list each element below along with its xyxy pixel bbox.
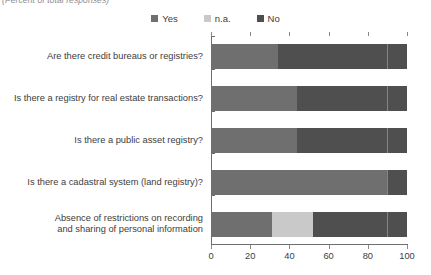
category-label: Absence of restrictions on recordingand … bbox=[0, 213, 203, 235]
chart-legend: Yes n.a. No bbox=[0, 14, 431, 23]
bar-row bbox=[211, 212, 407, 237]
legend-item-yes: Yes bbox=[151, 14, 178, 23]
x-axis-tick-label: 20 bbox=[245, 251, 255, 261]
category-label: Is there a public asset registry? bbox=[0, 135, 203, 146]
legend-swatch-na bbox=[204, 15, 211, 22]
category-separator-tick bbox=[211, 153, 215, 154]
x-axis-tick bbox=[250, 245, 251, 249]
category-label: Are there credit bureaus or registries? bbox=[0, 51, 203, 62]
bar-segment-na bbox=[272, 212, 313, 237]
axis-corner-tick bbox=[211, 244, 215, 245]
stacked-bar-chart: Are there credit bureaus or registries?I… bbox=[0, 30, 431, 275]
x-axis-tick-label: 80 bbox=[363, 251, 373, 261]
category-label-line: and sharing of personal information bbox=[0, 224, 203, 235]
x-axis-tick-label: 40 bbox=[284, 251, 294, 261]
x-axis-tick-top bbox=[329, 32, 330, 36]
bar-segment-yes bbox=[211, 44, 278, 69]
category-label: Is there a cadastral system (land regist… bbox=[0, 177, 203, 188]
bar-segment-no bbox=[313, 212, 407, 237]
bar-segment-yes bbox=[211, 86, 297, 111]
bar-row bbox=[211, 44, 407, 69]
category-separator-tick bbox=[211, 195, 215, 196]
legend-item-no: No bbox=[257, 14, 280, 23]
x-axis-tick bbox=[211, 245, 212, 249]
bar-segment-no bbox=[278, 44, 407, 69]
x-axis-tick-top bbox=[289, 32, 290, 36]
category-separator-tick bbox=[211, 111, 215, 112]
category-separator-tick bbox=[211, 69, 215, 70]
x-axis-tick-label: 60 bbox=[323, 251, 333, 261]
x-axis-tick-top bbox=[407, 32, 408, 36]
legend-item-na: n.a. bbox=[204, 14, 231, 23]
x-axis-tick bbox=[407, 245, 408, 249]
bar-segment-yes bbox=[211, 212, 272, 237]
bar-row bbox=[211, 170, 407, 195]
bar-segment-yes bbox=[211, 170, 387, 195]
bar-segment-no bbox=[387, 170, 407, 195]
x-axis-tick-top bbox=[368, 32, 369, 36]
x-axis-tick bbox=[289, 245, 290, 249]
x-axis-tick-label: 100 bbox=[399, 251, 415, 261]
bar-segment-yes bbox=[211, 128, 297, 153]
x-axis-tick-top bbox=[250, 32, 251, 36]
plot-area bbox=[211, 36, 407, 245]
category-axis-labels: Are there credit bureaus or registries?I… bbox=[0, 30, 203, 245]
legend-label-yes: Yes bbox=[162, 14, 178, 23]
bar-segment-no bbox=[297, 86, 407, 111]
x-axis-tick bbox=[329, 245, 330, 249]
legend-label-na: n.a. bbox=[215, 14, 231, 23]
bar-row bbox=[211, 86, 407, 111]
category-label: Is there a registry for real estate tran… bbox=[0, 93, 203, 104]
chart-subtitle: (Percent of total responses) bbox=[2, 0, 109, 5]
bar-row bbox=[211, 128, 407, 153]
x-axis-tick-label: 0 bbox=[208, 251, 213, 261]
legend-label-no: No bbox=[268, 14, 280, 23]
category-label-line: Absence of restrictions on recording bbox=[0, 213, 203, 224]
x-axis-tick bbox=[368, 245, 369, 249]
axis-corner-tick bbox=[211, 36, 215, 37]
bar-segment-no bbox=[297, 128, 407, 153]
legend-swatch-no bbox=[257, 15, 264, 22]
legend-swatch-yes bbox=[151, 15, 158, 22]
